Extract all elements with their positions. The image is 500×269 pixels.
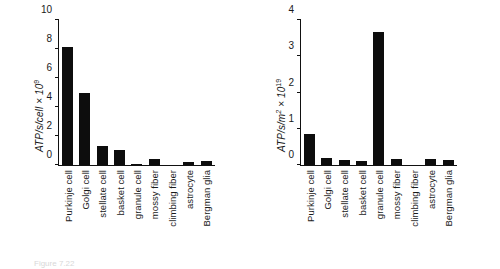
bar-right-8: [440, 20, 457, 165]
x-axis-tick-label: mossy fiber: [391, 170, 402, 219]
x-axis-tick-label: mossy fiber: [149, 170, 160, 219]
bar-rect: [356, 161, 367, 165]
bar-left-3: [111, 20, 128, 165]
bar-rect: [62, 47, 73, 165]
y-tick-left-0: 0: [46, 150, 52, 160]
panel-left-atp-per-cell: ATP/s/cell × 109 10 8 6 4 2 0 Purkinje c…: [0, 0, 250, 269]
x-axis-tick-label: stellate cell: [339, 170, 350, 218]
x-axis-tick-label: granule cell: [373, 170, 384, 219]
y-axis-label-left-exponent: 9: [33, 80, 40, 84]
bar-right-1: [318, 20, 335, 165]
bar-left-8: [198, 20, 215, 165]
bar-rect: [114, 150, 125, 165]
x-axis-tick-label: Purkinje cell: [304, 170, 315, 222]
bar-left-4: [128, 20, 145, 165]
y-axis-label-right-unit-exponent: 2: [275, 110, 282, 114]
bar-right-6: [405, 20, 422, 165]
y-tick-left-2: 4: [46, 92, 52, 102]
plot-area-left: 10 8 6 4 2 0 Purkinje cellGolgi cellstel…: [58, 20, 215, 166]
y-tick-left-1: 2: [46, 121, 52, 131]
plot-area-right: 4 3 2 1 0 Purkinje cellGolgi cellstellat…: [300, 20, 457, 166]
bar-left-2: [94, 20, 111, 165]
bar-rect: [304, 134, 315, 165]
figure-two-panel-bar-charts: ATP/s/cell × 109 10 8 6 4 2 0 Purkinje c…: [0, 0, 500, 269]
y-axis-label-right-tail: × 10: [276, 87, 287, 110]
bar-rect: [131, 164, 142, 165]
x-axis-tick-label: Purkinje cell: [62, 170, 73, 222]
bar-right-2: [336, 20, 353, 165]
bar-right-4: [370, 20, 387, 165]
bar-left-5: [146, 20, 163, 165]
x-axis-tick-label: astrocyte: [425, 170, 436, 209]
x-axis-tick-label: Golgi cell: [79, 170, 90, 210]
x-axis-tick-label: stellate cell: [97, 170, 108, 218]
bar-rect: [373, 32, 384, 165]
x-axis-tick-label: granule cell: [131, 170, 142, 219]
y-tick-right-1: 1: [288, 114, 294, 124]
bar-right-0: [301, 20, 318, 165]
y-tick-left-5: 10: [41, 5, 52, 15]
bar-rect: [391, 159, 402, 165]
bar-rect: [97, 146, 108, 165]
y-tick-right-2: 2: [288, 78, 294, 88]
x-axis-tick-label: astrocyte: [183, 170, 194, 209]
bar-rect: [425, 159, 436, 165]
bar-rect: [79, 93, 90, 165]
x-axis-tick-label: Bergman glia: [201, 170, 212, 227]
x-axis-tick-label: basket cell: [356, 170, 367, 215]
bar-rect: [339, 160, 350, 165]
bar-right-5: [388, 20, 405, 165]
y-axis-label-right: ATP/s/m2 × 1019: [276, 79, 287, 152]
bar-left-0: [59, 20, 76, 165]
y-tick-left-3: 6: [46, 63, 52, 73]
y-axis-label-left: ATP/s/cell × 109: [34, 80, 45, 152]
bars-left: [59, 20, 215, 165]
bar-rect: [321, 158, 332, 165]
panel-right-atp-per-area: ATP/s/m2 × 1019 4 3 2 1 0 Purkinje cellG…: [250, 0, 500, 269]
y-tick-right-0: 0: [288, 150, 294, 160]
y-axis-label-left-text: ATP/s/cell × 10: [34, 84, 45, 152]
x-axis-tick-label: climbing fiber: [408, 170, 419, 227]
y-tick-right-4: 4: [288, 5, 294, 15]
bar-rect: [443, 160, 454, 165]
bar-left-7: [180, 20, 197, 165]
bars-right: [301, 20, 457, 165]
y-tick-left-4: 8: [46, 34, 52, 44]
bar-right-3: [353, 20, 370, 165]
x-axis-tick-label: climbing fiber: [166, 170, 177, 227]
bar-rect: [201, 161, 212, 165]
x-axis-tick-label: Bergman glia: [443, 170, 454, 227]
y-axis-label-right-text: ATP/s/m: [276, 114, 287, 152]
y-tick-right-3: 3: [288, 41, 294, 51]
x-axis-tick-label: basket cell: [114, 170, 125, 215]
y-axis-label-right-exponent: 19: [275, 79, 282, 87]
x-axis-tick-label: Golgi cell: [321, 170, 332, 210]
bar-rect: [149, 159, 160, 165]
bar-rect: [183, 162, 194, 165]
bar-left-6: [163, 20, 180, 165]
bar-left-1: [76, 20, 93, 165]
bar-right-7: [422, 20, 439, 165]
figure-caption: Figure 7.22: [34, 259, 74, 268]
